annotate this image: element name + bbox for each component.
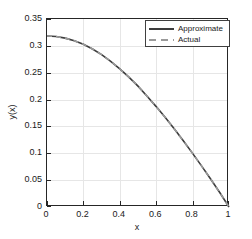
- y-tick-label: 0.05: [24, 174, 42, 184]
- data-curves: [47, 19, 229, 207]
- y-axis-title: y(x): [7, 105, 17, 120]
- y-tick-label: 0.15: [24, 120, 42, 130]
- legend-label-approximate: Approximate: [178, 23, 223, 34]
- series-line-approximate: [47, 36, 229, 207]
- legend-box[interactable]: Approximate Actual: [145, 20, 230, 47]
- x-tick-label: 0.4: [113, 209, 126, 219]
- y-tick-label: 0: [37, 201, 42, 211]
- legend-line-dashed-icon: [149, 34, 174, 45]
- legend-item-approximate[interactable]: Approximate: [149, 23, 226, 34]
- x-tick-label: 0.6: [149, 209, 162, 219]
- y-tick-label: 0.1: [29, 147, 42, 157]
- series-line-actual: [47, 36, 229, 207]
- x-tick-label: 0.8: [185, 209, 198, 219]
- y-tick-label: 0.3: [29, 40, 42, 50]
- x-tick-label: 0: [43, 209, 48, 219]
- y-tick-label: 0.35: [24, 13, 42, 23]
- legend-line-solid-icon: [149, 23, 174, 34]
- x-tick-label: 1: [225, 209, 230, 219]
- legend-label-actual: Actual: [178, 34, 200, 45]
- x-tick-label: 0.2: [76, 209, 89, 219]
- figure-canvas: 00.20.40.60.81 00.050.10.150.20.250.30.3…: [0, 0, 252, 239]
- legend-item-actual[interactable]: Actual: [149, 34, 226, 45]
- y-tick-label: 0.2: [29, 94, 42, 104]
- x-axis-title: x: [135, 222, 140, 232]
- y-tick-label: 0.25: [24, 67, 42, 77]
